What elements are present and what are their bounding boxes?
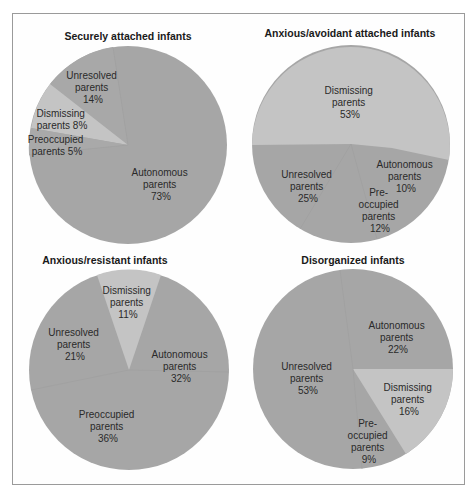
pie-chart-disorganized: Disorganized infants Autonomous parents … — [253, 254, 453, 469]
chart-title: Anxious/avoidant attached infants — [265, 27, 436, 39]
chart-title: Anxious/resistant infants — [42, 254, 168, 266]
pie-chart-securely-attached: Securely attached infants Unresolved par… — [28, 30, 227, 244]
chart-title: Securely attached infants — [64, 30, 191, 42]
chart-title: Disorganized infants — [301, 254, 404, 266]
pie-chart-anxious-avoidant: Anxious/avoidant attached infants Dismis… — [252, 27, 450, 243]
pie-chart-anxious-resistant: Anxious/resistant infants Dismissing par… — [29, 254, 229, 470]
label-dismissing: Dismissing parents 8% — [36, 108, 87, 131]
label-preoccupied: Preoccupied parents 5% — [28, 134, 86, 157]
pie-charts-figure: Securely attached infants Unresolved par… — [0, 0, 469, 495]
